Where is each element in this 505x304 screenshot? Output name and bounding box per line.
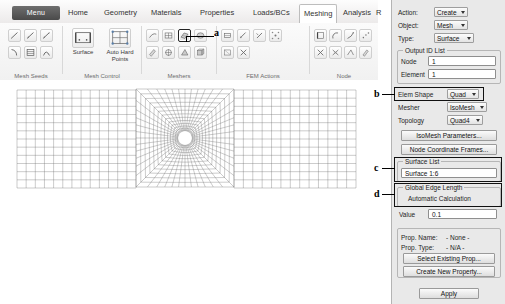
plate-with-hole-mesh xyxy=(0,80,378,304)
ribbon-group-label-mesh-control: Mesh Control xyxy=(63,73,141,79)
fem-action-5-icon[interactable] xyxy=(221,46,234,59)
object-label: Object: xyxy=(398,22,419,29)
tab-properties[interactable]: Properties xyxy=(196,5,238,23)
tab-results[interactable]: R xyxy=(372,5,385,23)
node-arc-icon[interactable] xyxy=(329,29,342,42)
type-select[interactable]: Surface xyxy=(434,33,474,43)
annotation-c: c xyxy=(374,162,378,173)
node-label: Node xyxy=(401,58,417,65)
auto-hard-points-icon xyxy=(109,28,131,48)
fem-action-3-icon[interactable] xyxy=(253,29,266,42)
annotation-b: b xyxy=(374,88,380,99)
apply-button[interactable]: Apply xyxy=(419,288,479,299)
ribbon-group-label-node: Node xyxy=(310,73,378,79)
surface-list-legend: Surface List xyxy=(403,158,441,165)
value-input[interactable]: 0.1 xyxy=(428,209,497,219)
mesh-seed-function-icon[interactable] xyxy=(40,46,53,59)
menu-button[interactable]: Menu xyxy=(12,6,60,20)
mesh-seed-onewaybias-icon[interactable] xyxy=(24,29,37,42)
tab-loads-bcs[interactable]: Loads/BCs xyxy=(249,5,294,23)
fem-action-2-icon[interactable] xyxy=(237,29,250,42)
auto-hard-points-button[interactable]: Auto Hard Points xyxy=(101,28,139,63)
type-label: Type: xyxy=(398,35,414,42)
prop-name-label: Prop. Name: xyxy=(401,234,438,241)
mesher-label: Mesher xyxy=(398,104,420,111)
automatic-calculation-checkbox[interactable]: Automatic Calculation xyxy=(408,195,471,202)
select-existing-prop-button[interactable]: Select Existing Prop... xyxy=(403,253,495,264)
elem-shape-select[interactable]: Quad xyxy=(447,89,479,99)
node-create-icon[interactable] xyxy=(314,29,327,42)
mesher-paver-icon[interactable] xyxy=(162,29,175,42)
create-new-property-button[interactable]: Create New Property... xyxy=(403,266,495,277)
value-label: Value xyxy=(399,211,415,218)
elem-shape-label: Elem Shape xyxy=(398,91,433,98)
surface-mesh-icon xyxy=(72,28,94,48)
topology-select[interactable]: Quad4 xyxy=(447,115,483,125)
node-id-input[interactable]: 1 xyxy=(428,56,496,66)
node-associate-icon[interactable] xyxy=(329,46,342,59)
mesh-seed-twowaybias-icon[interactable] xyxy=(40,29,53,42)
node-transform-icon[interactable] xyxy=(344,46,357,59)
topology-value: Quad4 xyxy=(450,117,470,124)
mesher-value: IsoMesh xyxy=(450,104,475,111)
tab-home[interactable]: Home xyxy=(64,5,92,23)
annotation-d-leader xyxy=(382,194,395,195)
node-curve-icon[interactable] xyxy=(344,29,357,42)
ribbon-group-mesh-seeds: Mesh Seeds xyxy=(0,23,62,80)
auto-hard-points-label: Auto Hard Points xyxy=(101,49,139,63)
elem-shape-value: Quad xyxy=(450,91,466,98)
ribbon-group-label-mesh-seeds: Mesh Seeds xyxy=(0,73,62,79)
mesher-sweep-icon[interactable] xyxy=(162,46,175,59)
ribbon: Menu Home Geometry Materials Properties … xyxy=(0,0,378,80)
mesher-curve-icon[interactable] xyxy=(146,29,159,42)
ribbon-group-mesh-control: Surface Auto Hard Points Mesh Control xyxy=(63,23,141,80)
mesh-seed-uniform-icon[interactable] xyxy=(8,29,21,42)
output-id-list-legend: Output ID List xyxy=(403,47,447,54)
node-coordinate-frames-button[interactable]: Node Coordinate Frames... xyxy=(401,144,497,155)
mesher-hex-icon[interactable] xyxy=(194,46,207,59)
object-select[interactable]: Mesh xyxy=(434,20,468,30)
mesher-tet-icon[interactable] xyxy=(178,46,191,59)
element-label: Element xyxy=(401,71,425,78)
tab-geometry[interactable]: Geometry xyxy=(100,5,141,23)
global-edge-length-legend: Global Edge Length xyxy=(403,184,464,191)
ribbon-body: Mesh Seeds Surface Auto Hard Points Mesh… xyxy=(0,23,378,81)
mesh-seed-table-icon[interactable] xyxy=(24,46,37,59)
isomesh-parameters-button[interactable]: IsoMesh Parameters... xyxy=(401,130,497,141)
node-delete-icon[interactable] xyxy=(314,46,327,59)
surface-mesh-button[interactable]: Surface xyxy=(66,28,100,56)
type-value: Surface xyxy=(437,35,459,42)
fem-action-1-icon[interactable] xyxy=(221,29,234,42)
node-edit-icon[interactable] xyxy=(359,46,372,59)
ribbon-group-label-meshers: Meshers xyxy=(142,73,216,79)
mesh-viewport[interactable] xyxy=(0,80,378,304)
annotation-a: a xyxy=(214,27,219,38)
tab-analysis[interactable]: Analysis xyxy=(339,5,375,23)
annotation-a-leader-tick xyxy=(186,36,187,42)
action-label: Action: xyxy=(398,9,418,16)
node-points-icon[interactable] xyxy=(359,29,372,42)
action-select[interactable]: Create xyxy=(434,7,468,17)
tab-bar: Menu Home Geometry Materials Properties … xyxy=(0,0,378,24)
ribbon-group-node: Node xyxy=(310,23,378,80)
mesh-seed-curvature-icon[interactable] xyxy=(8,46,21,59)
object-value: Mesh xyxy=(437,22,453,29)
fem-action-4-icon[interactable] xyxy=(269,29,282,42)
mesher-edit-icon[interactable] xyxy=(146,46,159,59)
mesher-select[interactable]: IsoMesh xyxy=(447,102,487,112)
topology-label: Topology xyxy=(398,117,424,124)
ribbon-group-fem-actions: FEM Actions xyxy=(217,23,309,80)
annotation-c-leader xyxy=(382,168,395,169)
tab-meshing[interactable]: Meshing xyxy=(299,4,337,25)
annotation-d: d xyxy=(374,188,380,199)
prop-name-value: - None - xyxy=(446,234,469,241)
ribbon-group-label-fem-actions: FEM Actions xyxy=(217,73,309,79)
surface-mesh-label: Surface xyxy=(66,49,100,56)
ribbon-group-meshers: Meshers xyxy=(142,23,216,80)
fem-action-6-icon[interactable] xyxy=(237,46,250,59)
annotation-b-leader xyxy=(382,94,395,95)
action-value: Create xyxy=(437,9,457,16)
surface-list-input[interactable]: Surface 1:6 xyxy=(401,168,497,178)
tab-materials[interactable]: Materials xyxy=(147,5,185,23)
element-id-input[interactable]: 1 xyxy=(428,69,496,79)
